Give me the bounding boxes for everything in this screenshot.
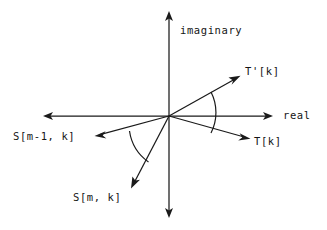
vector-t-k-line bbox=[169, 116, 246, 138]
vector-t-k-arrowhead bbox=[238, 133, 250, 140]
vector-t-prime-k bbox=[169, 76, 241, 116]
vector-s-m-k bbox=[131, 116, 169, 189]
vector-t-prime-k-line bbox=[169, 79, 236, 117]
vector-s-m-minus-1-k-label: S[m-1, k] bbox=[13, 131, 75, 142]
vector-t-prime-k-label: T'[k] bbox=[245, 66, 280, 77]
vector-s-m-k-label: S[m, k] bbox=[73, 192, 121, 203]
angle-arc-s-prev-to-s bbox=[130, 131, 149, 162]
imaginary-axis-label: imaginary bbox=[180, 25, 242, 36]
angle-arc-t-prime-to-t bbox=[211, 92, 216, 133]
vector-s-m-k-arrowhead bbox=[131, 176, 140, 188]
vector-s-m-minus-1-k-line bbox=[99, 116, 169, 135]
phasor-diagram-canvas bbox=[0, 0, 327, 230]
vector-s-m-minus-1-k bbox=[95, 116, 170, 139]
phasor-diagram: imaginary real T'[k] T[k] S[m-1, k] S[m,… bbox=[0, 0, 327, 230]
vector-t-k-label: T[k] bbox=[254, 136, 282, 147]
vector-t-k bbox=[169, 116, 251, 141]
vector-t-prime-k-arrowhead bbox=[229, 76, 241, 85]
vector-s-m-minus-1-k-arrowhead bbox=[95, 131, 107, 138]
vector-s-m-k-line bbox=[134, 116, 169, 183]
real-axis-label: real bbox=[283, 110, 311, 121]
